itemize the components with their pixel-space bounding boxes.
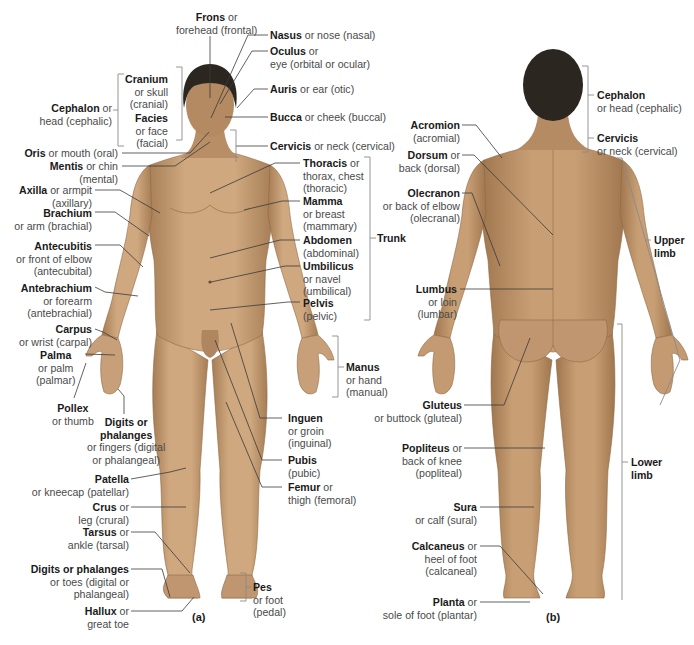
description: or loin xyxy=(428,296,457,308)
term: limb xyxy=(631,469,653,481)
anterior-genitalia xyxy=(201,330,218,358)
description: or groin xyxy=(288,425,324,437)
label-pes: Pesor foot(pedal) xyxy=(253,581,286,619)
bracket-cephalon-a xyxy=(118,74,124,146)
term: Gluteus xyxy=(423,399,462,411)
term: Tarsus xyxy=(83,526,117,538)
label-mentis: Mentis or chin(mental) xyxy=(50,160,118,185)
term-suffix: or xyxy=(448,149,460,161)
description: or wrist (carpal) xyxy=(19,336,92,348)
term: Inguen xyxy=(288,412,323,424)
posterior-right-leg xyxy=(556,330,615,598)
label-olecranon: Olecranonor back of elbow(olecranal) xyxy=(383,187,460,225)
description: ankle (tarsal) xyxy=(68,539,129,551)
leader-hallux xyxy=(131,597,194,611)
term: Mentis xyxy=(50,160,84,172)
label-digits-hand: Digits orphalangesor fingers (digitalor … xyxy=(87,416,165,466)
label-lumbus: Lumbusor loin(lumbar) xyxy=(416,283,457,321)
label-inguen: Inguenor groin(inguinal) xyxy=(288,412,332,450)
term: Carpus xyxy=(56,323,93,335)
description: (facial) xyxy=(136,137,168,149)
term: Lumbus xyxy=(416,283,457,295)
term-suffix: or xyxy=(450,442,462,454)
description: (lumbar) xyxy=(418,308,457,320)
label-hallux: Hallux orgreat toe xyxy=(85,605,129,630)
term-suffix: or xyxy=(306,45,318,57)
label-tarsus: Tarsus orankle (tarsal) xyxy=(68,526,129,551)
bracket-manus xyxy=(332,336,338,397)
description: or front of elbow xyxy=(16,253,92,265)
term: Thoracis xyxy=(303,157,347,169)
label-dorsum: Dorsum orback (dorsal) xyxy=(399,149,460,174)
label-acromion: Acromion(acromial) xyxy=(411,119,460,144)
bracket-trunk xyxy=(364,157,370,320)
posterior-left-leg xyxy=(491,330,552,598)
term: Nasus xyxy=(270,29,302,41)
term: Pes xyxy=(253,581,272,593)
term: Dorsum xyxy=(408,149,448,161)
description: eye (orbital or ocular) xyxy=(270,58,370,70)
term: Oculus xyxy=(270,45,306,57)
description: thigh (femoral) xyxy=(288,494,356,506)
term: Mamma xyxy=(303,195,342,207)
term: Cephalon xyxy=(597,89,645,101)
description: sole of foot (plantar) xyxy=(383,609,477,621)
bracket-cephalon-b xyxy=(582,66,588,123)
description: great toe xyxy=(87,618,129,630)
term-suffix: or xyxy=(117,526,129,538)
label-abdomen: Abdomen(abdominal) xyxy=(303,234,359,259)
leader-digits-hand xyxy=(118,389,124,414)
description: or neck (cervical) xyxy=(597,145,678,157)
description: thorax, chest xyxy=(303,170,364,182)
panel-label-posterior: (b) xyxy=(546,611,560,623)
term: phalanges xyxy=(100,429,152,441)
label-thoracis: Thoracis orthorax, chest(thoracic) xyxy=(303,157,364,195)
label-cervicis-b: Cervicisor neck (cervical) xyxy=(597,132,678,157)
term-suffix: or ear (otic) xyxy=(297,83,354,95)
label-cephalon-a: Cephalon orhead (cephalic) xyxy=(40,102,112,127)
label-upper-limb: Upperlimb xyxy=(654,234,685,259)
term-suffix: or xyxy=(465,540,477,552)
anterior-torso xyxy=(147,150,273,352)
term: Palma xyxy=(40,349,71,361)
label-cephalon-b: Cephalonor head (cephalic) xyxy=(597,89,682,114)
description: or palm xyxy=(38,362,73,374)
term: Bucca xyxy=(270,111,302,123)
term: Pelvis xyxy=(303,297,334,309)
description: or head (cephalic) xyxy=(597,102,682,114)
description: (mental) xyxy=(79,173,118,185)
label-carpus: Carpusor wrist (carpal) xyxy=(19,323,92,348)
description: or kneecap (patellar) xyxy=(32,486,129,498)
description: (calcaneal) xyxy=(425,565,477,577)
term: Trunk xyxy=(377,232,406,244)
term: Frons xyxy=(196,11,225,23)
term: Pollex xyxy=(57,402,88,414)
label-nasus: Nasus or nose (nasal) xyxy=(270,29,375,42)
description: or forearm xyxy=(43,295,92,307)
term: Lower xyxy=(631,456,662,468)
description: or hand xyxy=(346,374,382,386)
label-antebrachium: Antebrachiumor forearm(antebrachial) xyxy=(21,282,92,320)
bracket-lower-limb xyxy=(617,324,622,600)
label-oris: Oris or mouth (oral) xyxy=(24,147,118,160)
posterior-head xyxy=(523,49,583,121)
description: (inguinal) xyxy=(288,437,332,449)
label-facies: Faciesor face(facial) xyxy=(135,112,168,150)
term: Olecranon xyxy=(408,187,460,199)
label-planta: Planta orsole of foot (plantar) xyxy=(383,596,477,621)
description: or calf (sural) xyxy=(415,514,477,526)
description: (manual) xyxy=(346,386,388,398)
leader-pollex xyxy=(74,363,86,398)
description: (pubic) xyxy=(288,467,320,479)
term: Abdomen xyxy=(303,234,352,246)
description: (mammary) xyxy=(303,220,357,232)
term: limb xyxy=(654,247,676,259)
term-suffix: or xyxy=(465,596,477,608)
description: (antecubital) xyxy=(34,265,92,277)
term: Popliteus xyxy=(402,442,450,454)
term: Cervicis xyxy=(597,132,638,144)
description: leg (crural) xyxy=(78,514,129,526)
description: head (cephalic) xyxy=(40,115,112,127)
label-crus: Crus orleg (crural) xyxy=(78,501,129,526)
description: phalangeal) xyxy=(74,588,129,600)
